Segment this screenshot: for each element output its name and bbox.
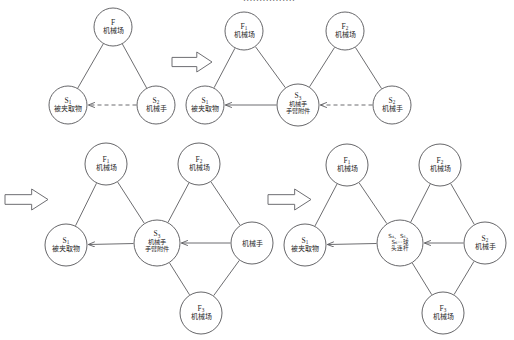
edge-F2-to-M (211, 182, 240, 225)
edge-F1-to-S1 (214, 48, 235, 87)
node-label-line: S₄、S₅、 (388, 233, 412, 239)
transition-arrow-middle (268, 189, 311, 210)
edge-F1-to-S1 (315, 184, 337, 226)
node-label-line: 被夹取物 (54, 104, 82, 113)
edge-F3-to-M (214, 260, 240, 295)
node-two-field-chain-S2[interactable]: S2机械手 (373, 86, 411, 124)
node-three-field-chain-S1[interactable]: S1被夹取物 (45, 224, 87, 266)
edge-F-to-S2 (122, 44, 146, 88)
node-label-line: S₆···球 (391, 238, 408, 245)
node-label-line: 机械场 (189, 163, 210, 172)
transition-arrow-left (5, 189, 48, 210)
node-three-field-chain-M[interactable]: 机械手 (231, 222, 273, 264)
node-ball-link-chain-F1[interactable]: F1机械场 (326, 144, 368, 186)
node-identifier: F (111, 18, 115, 27)
diagram-canvas: F机械场S1被夹取物S2机械手F1机械场F2机械场S1被夹取物S3机械手手臂附件… (0, 0, 514, 340)
edge-F1-to-S3 (118, 182, 145, 223)
edge-SB-to-S1 (327, 243, 376, 244)
edge-S3-to-S1 (88, 244, 133, 245)
node-three-field-chain-F1[interactable]: F1机械场 (85, 143, 127, 185)
edge-F2-to-SB (411, 184, 430, 222)
node-three-field-chain-F2[interactable]: F2机械场 (178, 143, 220, 185)
node-two-field-chain-S1[interactable]: S1被夹取物 (186, 86, 224, 124)
edge-F1-to-S3 (255, 47, 285, 88)
node-label-line: 机械手 (242, 239, 263, 248)
node-label-line: 机械场 (191, 312, 212, 321)
node-label-line: 机械场 (96, 163, 117, 172)
node-three-field-chain-S3[interactable]: S3机械手手臂附件 (134, 220, 180, 266)
edge-F2-to-S3 (310, 47, 335, 86)
edge-F1-to-S1 (76, 183, 97, 225)
node-label-line: 机械场 (433, 312, 454, 321)
node-label-line: 被夹取物 (291, 244, 319, 253)
node-label-line: 机械场 (337, 164, 358, 173)
node-label-line: 机械场 (103, 26, 124, 35)
node-ball-link-chain-F3[interactable]: F3机械场 (422, 292, 464, 334)
node-two-field-chain-S3[interactable]: S3机械手手臂附件 (277, 84, 319, 126)
edge-F2-to-S2 (451, 184, 475, 225)
node-initial-triangle-S1[interactable]: S1被夹取物 (49, 86, 87, 124)
edge-F3-to-SB (412, 263, 431, 295)
node-label-line: 被夹取物 (191, 104, 219, 113)
node-label-line: 机械手 (146, 104, 167, 113)
transition-arrow-top (172, 52, 212, 72)
node-initial-triangle-S2[interactable]: S2机械手 (137, 86, 175, 124)
node-label-line: 机械手 (475, 242, 496, 251)
edge-F1-to-SB (359, 183, 387, 224)
node-ball-link-chain-F2[interactable]: F2机械场 (419, 144, 461, 186)
node-label-line: 机械场 (335, 30, 356, 39)
node-label-line: 机械手 (382, 104, 403, 113)
edge-F-to-S1 (78, 44, 104, 88)
node-label-line: 手臂附件 (145, 245, 169, 253)
node-label-line: 机械场 (430, 164, 451, 173)
node-ball-link-chain-S1[interactable]: S1被夹取物 (284, 224, 326, 266)
node-two-field-chain-F2[interactable]: F2机械场 (326, 12, 364, 50)
node-label-line: 机械场 (234, 30, 255, 39)
edge-F2-to-S3 (168, 183, 189, 222)
transition-arrows-layer (5, 52, 311, 210)
edge-F2-to-S2 (355, 47, 381, 88)
node-label-line: 头连杆 (391, 244, 409, 252)
nodes-layer: F机械场S1被夹取物S2机械手F1机械场F2机械场S1被夹取物S3机械手手臂附件… (45, 8, 506, 334)
edge-F3-to-S2 (454, 261, 474, 294)
node-ball-link-chain-S2[interactable]: S2机械手 (464, 222, 506, 264)
node-two-field-chain-F1[interactable]: F1机械场 (225, 12, 263, 50)
node-three-field-chain-F3[interactable]: F3机械场 (180, 292, 222, 334)
node-initial-triangle-F[interactable]: F机械场 (94, 8, 132, 46)
edge-F3-to-S3 (170, 263, 190, 295)
node-ball-link-chain-SB[interactable]: S₄、S₅、S₆···球头连杆 (377, 220, 423, 266)
node-label-line: 被夹取物 (52, 244, 80, 253)
node-label-line: 手臂附件 (286, 107, 310, 115)
